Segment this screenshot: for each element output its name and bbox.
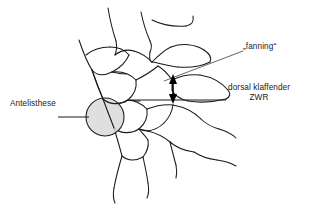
process-upper-right-bottom — [178, 62, 210, 67]
process-low-right-shaft — [173, 105, 201, 119]
body-lower-posterior-edge — [139, 109, 147, 129]
process-low-right-bottom — [148, 123, 164, 131]
spinous-process-lower-2 — [143, 157, 148, 183]
label-antelisthesis: Antelisthese — [10, 99, 56, 109]
process-low-right-end — [219, 129, 236, 138]
lamina-lowest — [194, 152, 217, 160]
leader-line-fanning — [164, 51, 243, 81]
facet-lower-mid — [158, 66, 172, 80]
spinous-link — [150, 52, 152, 62]
process-upper-right-base — [152, 62, 178, 67]
body-upper-superior-edge2 — [86, 47, 110, 55]
process-upper-right-tip — [204, 50, 211, 62]
lamina-lowest-tip — [217, 160, 236, 166]
spinous-process-lower-2b — [147, 183, 149, 198]
process-mid-right-shaft — [200, 75, 228, 90]
process-upper-right-shaft — [171, 45, 204, 50]
lamina-upper-1-tip — [186, 16, 193, 26]
spinous-process-lower-1b — [113, 188, 115, 203]
arrow-head-down — [169, 94, 177, 104]
facet-lowest-mid — [170, 142, 194, 152]
spinous-process-upper-2b — [150, 41, 152, 52]
body-lowest-inferior — [122, 156, 143, 160]
spinous-process-upper-2 — [141, 12, 150, 41]
process-low-right-tip — [201, 119, 219, 129]
body-upper-inferior-edge — [92, 70, 112, 75]
facet-low-right-top — [147, 105, 173, 109]
process-upper-right-top — [152, 47, 171, 62]
body-upper-superior-edge — [110, 47, 129, 55]
label-dorsal-gap-line2: ZWR — [228, 93, 290, 103]
body-upper-posterior-edge — [112, 55, 129, 72]
facet-lower-left — [136, 66, 158, 80]
body-lowest-posterior — [143, 140, 148, 157]
spinous-process-upper-1 — [108, 8, 116, 41]
label-dorsal-gap: dorsal klaffenderZWR — [228, 83, 314, 103]
spinous-process-lower-3b — [176, 165, 177, 178]
body-mid-posterior-edge — [128, 80, 136, 100]
facet-lowest-top — [148, 131, 170, 142]
label-fanning: „fanning“ — [243, 42, 276, 52]
lamina-upper-1 — [152, 20, 186, 26]
process-low-right-inner — [164, 105, 173, 123]
spinous-process-lower-1 — [114, 156, 122, 188]
facet-upper-left — [115, 50, 134, 55]
label-dorsal-gap-line1: dorsal klaffender — [228, 83, 290, 92]
figure-canvas: „fanning“ dorsal klaffenderZWR Antelisth… — [0, 0, 319, 214]
process-mid-right-top — [172, 75, 200, 80]
